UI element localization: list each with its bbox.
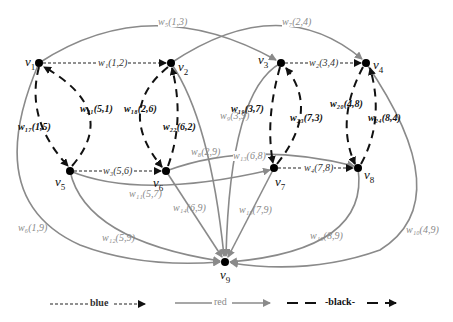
edge-label-w10: w₁₀(4,9) (406, 225, 439, 235)
edge-label-w1: w₁(1,2) (97, 58, 128, 68)
node-v2 (167, 59, 175, 67)
node-v8 (354, 164, 362, 172)
node-label-v1: v1 (25, 55, 35, 72)
edge-label-w3: w₃(5,6) (102, 166, 133, 176)
edge-w18 (140, 67, 168, 167)
node-v1 (35, 59, 43, 67)
node-label-v2: v2 (178, 60, 188, 77)
legend-blue: blue (90, 298, 108, 308)
edge-label-w13: w₁₃(6,8) (233, 151, 266, 161)
edge-label-w21: w₂₁(5,1) (80, 104, 113, 114)
node-v9 (221, 258, 229, 266)
edge-w17 (36, 67, 68, 166)
edge-label-w17: w₁₇(1,5) (18, 122, 51, 132)
node-label-v3: v3 (258, 53, 268, 70)
edge-w22 (168, 68, 178, 166)
edge-label-w2: w₂(3,4) (308, 58, 339, 68)
edge-label-w12: w₁₂(5,9) (102, 233, 135, 243)
node-label-v8: v8 (364, 168, 374, 185)
node-label-v4: v4 (373, 58, 383, 75)
node-v7 (270, 164, 278, 172)
edge-label-w4: w₄(7,8) (303, 163, 334, 173)
legend-black: -black- (325, 297, 355, 307)
node-v4 (362, 59, 370, 67)
edge-label-w8: w₈(2,9) (191, 147, 220, 157)
node-label-v7: v7 (275, 175, 285, 192)
edge-w8 (171, 63, 224, 256)
edge-label-w5: w₅(1,3) (158, 17, 187, 27)
edge-label-w23: w₂₃(7,3) (290, 113, 323, 123)
edge-label-w14: w₁₄(6,9) (173, 203, 206, 213)
edge-label-w22: w₂₂(6,2) (163, 122, 196, 132)
edge-w5 (39, 26, 276, 63)
edge-label-w11: w₁₁(5,7) (129, 189, 162, 199)
legend-red: red (214, 297, 227, 307)
node-label-v9: v9 (220, 268, 230, 285)
node-label-v5: v5 (55, 175, 65, 192)
edge-w20 (347, 67, 363, 164)
edge-label-w7: w₇(2,4) (282, 17, 311, 27)
edge-label-w6: w₆(1,9) (18, 223, 47, 233)
edge-label-w20: w₂₀(4,8) (330, 99, 363, 109)
edge-label-w18: w₁₈(2,6) (124, 104, 157, 114)
edge-label-w15: w₁₅(7,9) (239, 205, 272, 215)
edge-label-w24: w₂₄(8,4) (368, 113, 401, 123)
edge-label-w16: w₁₆(8,9) (310, 231, 343, 241)
edge-w21 (44, 67, 91, 166)
node-v3 (277, 59, 285, 67)
node-v5 (66, 167, 74, 175)
node-v6 (162, 167, 170, 175)
edge-label-w19: w₁₉(3,7) (231, 104, 264, 114)
edge-w19 (270, 67, 280, 163)
